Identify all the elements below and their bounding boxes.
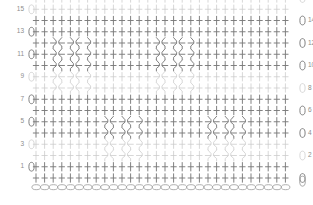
single-crochet-symbol	[239, 0, 245, 3]
single-crochet-symbol	[110, 162, 116, 171]
single-crochet-symbol	[239, 27, 245, 36]
single-crochet-symbol	[257, 95, 263, 104]
single-crochet-symbol	[257, 140, 263, 149]
single-crochet-symbol	[214, 83, 220, 92]
single-crochet-symbol	[128, 16, 134, 25]
single-crochet-symbol	[248, 162, 254, 171]
single-crochet-symbol	[248, 72, 254, 81]
crochet-chart-diagram: 151413121110987654321	[0, 0, 313, 205]
single-crochet-symbol	[50, 162, 56, 171]
single-crochet-symbol	[93, 162, 99, 171]
stitch-row	[33, 16, 289, 25]
chain-stitch-symbol	[161, 185, 170, 190]
single-crochet-symbol	[76, 140, 82, 149]
single-crochet-symbol	[102, 61, 108, 70]
single-crochet-symbol	[239, 16, 245, 25]
cable-block	[205, 116, 246, 127]
single-crochet-symbol	[67, 173, 73, 182]
single-crochet-symbol	[42, 50, 48, 59]
single-crochet-symbol	[136, 50, 142, 59]
single-crochet-symbol	[119, 38, 125, 47]
single-crochet-symbol	[179, 117, 185, 126]
single-crochet-symbol	[85, 162, 91, 171]
single-crochet-symbol	[119, 83, 125, 92]
single-crochet-symbol	[162, 117, 168, 126]
single-crochet-symbol	[102, 95, 108, 104]
single-crochet-symbol	[59, 95, 65, 104]
row-label-1: 1	[20, 162, 24, 169]
single-crochet-symbol	[119, 173, 125, 182]
single-crochet-symbol	[196, 27, 202, 36]
single-crochet-symbol	[205, 50, 211, 59]
single-crochet-symbol	[265, 72, 271, 81]
crochet-chart-container: 151413121110987654321	[0, 0, 313, 205]
single-crochet-symbol	[248, 61, 254, 70]
chain-stitch-symbol	[127, 185, 136, 190]
single-crochet-symbol	[248, 0, 254, 3]
single-crochet-symbol	[42, 140, 48, 149]
single-crochet-symbol	[248, 95, 254, 104]
single-crochet-symbol	[59, 117, 65, 126]
single-crochet-symbol	[222, 27, 228, 36]
row-label-14: 14	[308, 16, 313, 23]
cable-block	[102, 116, 143, 127]
single-crochet-symbol	[119, 16, 125, 25]
single-crochet-symbol	[188, 173, 194, 182]
single-crochet-symbol	[136, 173, 142, 182]
single-crochet-symbol	[102, 72, 108, 81]
single-crochet-symbol	[110, 106, 116, 115]
single-crochet-symbol	[282, 83, 288, 92]
single-crochet-symbol	[162, 162, 168, 171]
single-crochet-symbol	[274, 27, 280, 36]
single-crochet-symbol	[179, 128, 185, 137]
single-crochet-symbol	[257, 72, 263, 81]
single-crochet-symbol	[145, 173, 151, 182]
single-crochet-symbol	[282, 140, 288, 149]
single-crochet-symbol	[50, 140, 56, 149]
single-crochet-symbol	[188, 27, 194, 36]
single-crochet-symbol	[33, 106, 39, 115]
single-crochet-symbol	[222, 173, 228, 182]
single-crochet-symbol	[42, 117, 48, 126]
single-crochet-symbol	[214, 61, 220, 70]
stitch-row	[33, 173, 289, 182]
single-crochet-symbol	[119, 27, 125, 36]
single-crochet-symbol	[119, 61, 125, 70]
single-crochet-symbol	[179, 0, 185, 3]
chain-stitch-symbol	[41, 185, 50, 190]
chain-stitch-symbol	[49, 185, 58, 190]
single-crochet-symbol	[274, 72, 280, 81]
single-crochet-symbol	[136, 61, 142, 70]
single-crochet-symbol	[265, 106, 271, 115]
single-crochet-symbol	[128, 38, 134, 47]
single-crochet-symbol	[179, 162, 185, 171]
single-crochet-symbol	[196, 83, 202, 92]
single-crochet-symbol	[274, 117, 280, 126]
single-crochet-symbol	[248, 50, 254, 59]
single-crochet-symbol	[282, 117, 288, 126]
single-crochet-symbol	[265, 0, 271, 3]
single-crochet-symbol	[205, 83, 211, 92]
single-crochet-symbol	[214, 0, 220, 3]
single-crochet-symbol	[93, 38, 99, 47]
single-crochet-symbol	[93, 72, 99, 81]
single-crochet-symbol	[67, 117, 73, 126]
single-crochet-symbol	[76, 0, 82, 3]
single-crochet-symbol	[231, 61, 237, 70]
single-crochet-symbol	[171, 140, 177, 149]
single-crochet-symbol	[222, 61, 228, 70]
single-crochet-symbol	[188, 106, 194, 115]
single-crochet-symbol	[231, 95, 237, 104]
single-crochet-symbol	[179, 16, 185, 25]
single-crochet-symbol	[222, 50, 228, 59]
single-crochet-symbol	[265, 61, 271, 70]
single-crochet-symbol	[136, 83, 142, 92]
single-crochet-symbol	[214, 162, 220, 171]
single-crochet-symbol	[110, 61, 116, 70]
single-crochet-symbol	[50, 128, 56, 137]
cable-block	[50, 71, 91, 82]
single-crochet-symbol	[231, 173, 237, 182]
single-crochet-symbol	[85, 16, 91, 25]
single-crochet-symbol	[196, 162, 202, 171]
single-crochet-symbol	[214, 95, 220, 104]
